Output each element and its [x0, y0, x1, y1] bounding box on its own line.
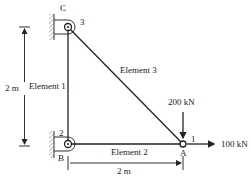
vertical-dimension-label: 2 m: [5, 84, 19, 93]
horizontal-dimension-label: 2 m: [117, 167, 131, 176]
load-200kn-label: 200 kN: [168, 98, 195, 107]
node-c-label: C: [60, 4, 66, 13]
node-b-number: 2: [59, 129, 64, 138]
element-2-label: Element 2: [111, 148, 148, 157]
element-1-label: Element 1: [29, 82, 66, 91]
element-3-label: Element 3: [120, 66, 157, 75]
node-a-number: 1: [191, 135, 196, 144]
node-a-icon: [180, 141, 186, 147]
node-c-number: 3: [80, 18, 85, 27]
node-a-label: A: [180, 149, 187, 158]
node-b-label: B: [58, 154, 64, 163]
load-100kn-label: 100 kN: [221, 140, 248, 149]
element-3-line: [68, 27, 183, 144]
